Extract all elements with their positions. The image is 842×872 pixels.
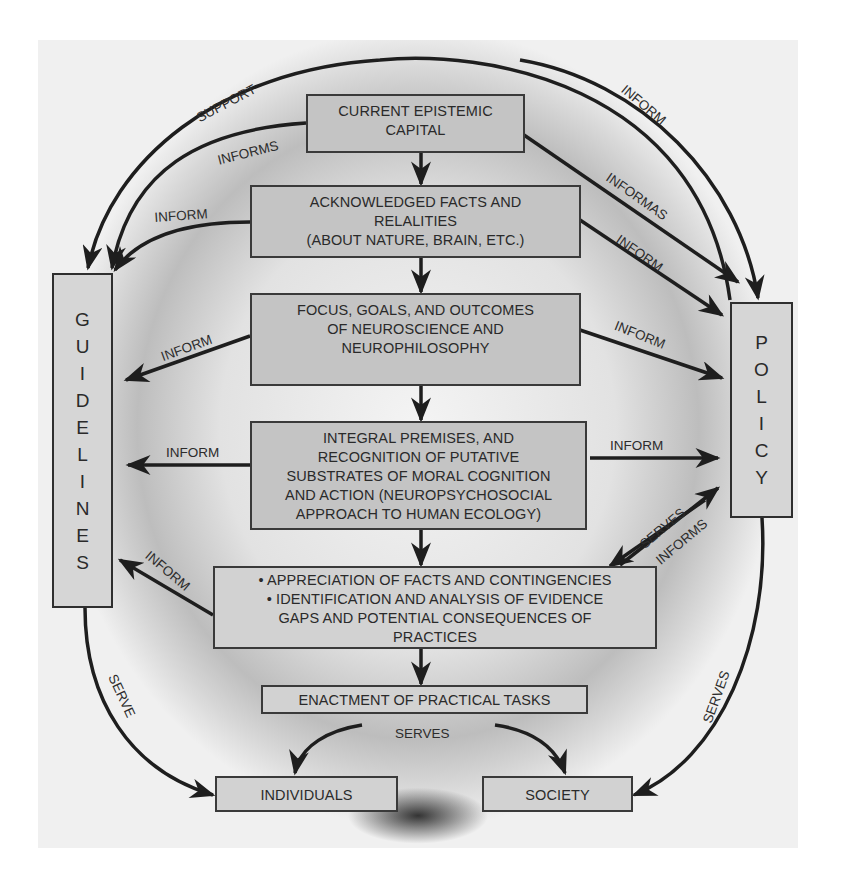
node-integral-premises: INTEGRAL PREMISES, AND RECOGNITION OF PU… xyxy=(250,421,587,530)
node-line: (ABOUT NATURE, BRAIN, ETC.) xyxy=(306,231,524,250)
node-line: INDIVIDUALS xyxy=(260,786,352,805)
arrow-serves-policy-society xyxy=(634,518,763,795)
letter: G xyxy=(75,306,90,333)
letter: Y xyxy=(755,464,768,491)
letter: N xyxy=(76,495,90,522)
node-line: INTEGRAL PREMISES, AND xyxy=(323,429,514,448)
letter: I xyxy=(80,468,85,495)
letter: I xyxy=(759,410,764,437)
node-guidelines: G U I D E L I N E S xyxy=(52,273,113,608)
label-inform-premises-right: INFORM xyxy=(610,438,663,453)
node-line: SUBSTRATES OF MORAL COGNITION xyxy=(287,467,551,486)
node-line: GAPS AND POTENTIAL CONSEQUENCES OF xyxy=(278,609,591,628)
arrow-inform-facts-guidelines xyxy=(115,222,250,270)
node-line: AND ACTION (NEUROPSYCHOSOCIAL xyxy=(285,486,552,505)
letter: L xyxy=(77,441,88,468)
node-line: NEUROPHILOSOPHY xyxy=(341,339,489,358)
node-line: PRACTICES xyxy=(393,628,477,647)
letter: I xyxy=(80,360,85,387)
node-line: ENACTMENT OF PRACTICAL TASKS xyxy=(298,691,550,710)
letter: S xyxy=(76,549,89,576)
node-line: RELALITIES xyxy=(374,212,457,231)
letter: O xyxy=(754,356,769,383)
arrow-serves-society xyxy=(495,725,565,773)
letter: E xyxy=(76,414,89,441)
label-inform-premises-left: INFORM xyxy=(166,445,219,460)
node-appreciation: • APPRECIATION OF FACTS AND CONTINGENCIE… xyxy=(213,566,657,649)
node-line: • IDENTIFICATION AND ANALYSIS OF EVIDENC… xyxy=(267,590,604,609)
node-focus-goals: FOCUS, GOALS, AND OUTCOMES OF NEUROSCIEN… xyxy=(250,293,581,386)
letter: L xyxy=(756,383,767,410)
node-epistemic-capital: CURRENT EPISTEMIC CAPITAL xyxy=(306,94,525,153)
arrow-serves-individuals xyxy=(295,725,362,773)
node-line: SOCIETY xyxy=(525,786,589,805)
node-society: SOCIETY xyxy=(482,776,633,812)
node-individuals: INDIVIDUALS xyxy=(215,776,398,812)
node-line: ACKNOWLEDGED FACTS AND xyxy=(310,193,522,212)
letter: C xyxy=(755,437,769,464)
node-line: RECOGNITION OF PUTATIVE xyxy=(318,448,520,467)
node-line: CAPITAL xyxy=(385,121,445,140)
node-enactment: ENACTMENT OF PRACTICAL TASKS xyxy=(261,685,588,714)
node-policy: P O L I C Y xyxy=(730,302,793,518)
node-line: CURRENT EPISTEMIC xyxy=(338,102,493,121)
label-serves-bottom: SERVES xyxy=(395,726,450,741)
node-acknowledged-facts: ACKNOWLEDGED FACTS AND RELALITIES (ABOUT… xyxy=(250,185,581,258)
node-line: • APPRECIATION OF FACTS AND CONTINGENCIE… xyxy=(259,571,612,590)
node-line: FOCUS, GOALS, AND OUTCOMES xyxy=(297,301,534,320)
node-line: APPROACH TO HUMAN ECOLOGY) xyxy=(296,505,541,524)
letter: P xyxy=(755,329,768,356)
letter: D xyxy=(76,387,90,414)
node-line: OF NEUROSCIENCE AND xyxy=(327,320,504,339)
letter: U xyxy=(76,333,90,360)
diagram-canvas: CURRENT EPISTEMIC CAPITAL ACKNOWLEDGED F… xyxy=(0,0,842,872)
letter: E xyxy=(76,522,89,549)
arrow-serve-guidelines-individuals xyxy=(85,608,213,795)
